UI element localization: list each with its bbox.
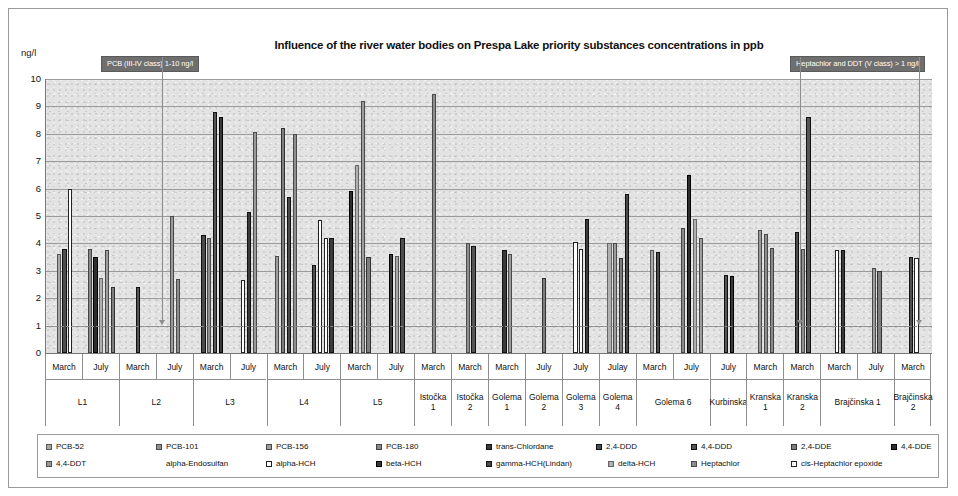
bar <box>366 257 370 353</box>
bar <box>324 238 328 353</box>
bar <box>841 250 845 353</box>
annotation-leader-line <box>162 57 163 320</box>
y-tick-label: 2 <box>15 292 41 303</box>
x-axis-site-cell: Golema 3 <box>562 380 599 426</box>
legend-swatch <box>376 461 382 467</box>
bar <box>764 234 768 353</box>
bar <box>806 117 810 353</box>
legend-swatch <box>266 444 272 450</box>
bar <box>801 249 805 353</box>
legend-label: trans-Chlordane <box>496 442 553 451</box>
legend-item[interactable]: 2,4-DDD <box>596 442 637 451</box>
legend-item[interactable]: beta-HCH <box>376 459 422 468</box>
x-axis-period-cell: March <box>820 354 857 380</box>
x-axis-period-cell: March <box>783 354 820 380</box>
bar <box>542 278 546 353</box>
bar <box>607 243 611 353</box>
bar <box>329 238 333 353</box>
bar <box>395 256 399 353</box>
legend-item[interactable]: 4,4-DDD <box>691 442 732 451</box>
bar <box>99 278 103 353</box>
bar <box>625 194 629 353</box>
legend-item[interactable]: gamma-HCH(Lindan) <box>486 459 572 468</box>
bar <box>219 117 223 353</box>
legend-swatch <box>486 444 492 450</box>
legend-label: gamma-HCH(Lindan) <box>496 459 572 468</box>
bar <box>619 258 623 353</box>
x-axis-period-cell: July <box>562 354 599 380</box>
chart-title: Influence of the river water bodies on P… <box>189 39 849 51</box>
y-tick-label: 1 <box>15 320 41 331</box>
bar <box>681 228 685 353</box>
legend-label: PCB-52 <box>56 442 84 451</box>
bar <box>585 219 589 353</box>
legend-swatch <box>46 461 52 467</box>
plot-area <box>45 79 932 354</box>
bar <box>573 242 577 353</box>
legend-item[interactable]: 4,4-DDE <box>891 442 932 451</box>
legend-swatch <box>266 461 272 467</box>
legend-swatch <box>791 461 797 467</box>
bar <box>105 250 109 353</box>
bar <box>471 246 475 353</box>
legend-item[interactable]: 2,4-DDE <box>791 442 832 451</box>
legend-item[interactable]: alpha-HCH <box>266 459 316 468</box>
x-axis-period-cell: Julay <box>599 354 636 380</box>
bar <box>770 248 774 353</box>
x-axis-period-cell: July <box>156 354 193 380</box>
legend-item[interactable]: PCB-180 <box>376 442 418 451</box>
bar <box>281 128 285 353</box>
x-axis-period-cell: July <box>303 354 340 380</box>
x-axis-period-cell: March <box>746 354 783 380</box>
legend-item[interactable]: trans-Chlordane <box>486 442 553 451</box>
x-axis-site-cell: L1 <box>45 380 119 426</box>
legend-item[interactable]: cis-Heptachlor epoxide <box>791 459 882 468</box>
legend-item[interactable]: delta-HCH <box>608 459 655 468</box>
bar <box>93 257 97 353</box>
legend-label: alpha-HCH <box>276 459 316 468</box>
legend-label: 2,4-DDD <box>606 442 637 451</box>
chart-screenshot: ng/l Influence of the river water bodies… <box>0 0 958 496</box>
x-axis-period-cell: July <box>82 354 119 380</box>
legend-swatch <box>376 444 382 450</box>
x-axis-period-cell: March <box>636 354 673 380</box>
legend-item[interactable]: Heptachlor <box>691 459 740 468</box>
annotation-leader-arrow <box>916 320 922 325</box>
bar <box>466 243 470 353</box>
y-tick-label: 6 <box>15 183 41 194</box>
bar <box>247 212 251 353</box>
annotation-leader-arrow <box>159 320 165 325</box>
x-axis-period-cell: March <box>45 354 82 380</box>
y-tick-label: 3 <box>15 265 41 276</box>
y-tick-label: 8 <box>15 128 41 139</box>
bar <box>312 265 316 353</box>
x-axis-site-cell: Brajčinska 1 <box>820 380 894 426</box>
bar <box>170 216 174 353</box>
legend-swatch <box>46 444 52 450</box>
bar <box>579 249 583 353</box>
bar <box>318 220 322 353</box>
bar <box>176 279 180 353</box>
legend-label: PCB-180 <box>386 442 418 451</box>
legend-item[interactable]: alpha-Endosulfan <box>156 459 228 468</box>
legend-item[interactable]: PCB-52 <box>46 442 84 451</box>
legend-swatch <box>791 444 797 450</box>
bar <box>349 191 353 353</box>
x-axis-period-cell: July <box>230 354 267 380</box>
y-tick-label: 10 <box>15 73 41 84</box>
legend-item[interactable]: PCB-156 <box>266 442 308 451</box>
x-axis-site-cell: Golema 4 <box>599 380 636 426</box>
legend-item[interactable]: PCB-101 <box>156 442 198 451</box>
bar <box>275 256 279 353</box>
x-axis-site-cell: Istočka 2 <box>451 380 488 426</box>
x-axis-site-cell: Brajčinska 2 <box>894 380 931 426</box>
legend-label: PCB-156 <box>276 442 308 451</box>
bar <box>795 232 799 353</box>
x-axis-period-cell: July <box>525 354 562 380</box>
bar <box>57 254 61 353</box>
legend-item[interactable]: 4,4-DDT <box>46 459 86 468</box>
annotation-heptachlor-ddt-class: Heptachlor and DDT (V class) > 1 ng/l <box>790 56 925 72</box>
bar <box>909 257 913 353</box>
x-axis-period-cell: March <box>267 354 304 380</box>
bar <box>872 268 876 353</box>
